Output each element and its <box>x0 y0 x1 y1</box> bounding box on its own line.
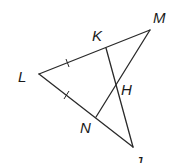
segment-MN <box>96 30 150 117</box>
label-H: H <box>121 81 132 98</box>
segment-LJ <box>39 74 133 147</box>
label-J: J <box>134 153 143 163</box>
tick-mark-LN <box>64 91 69 99</box>
geometry-diagram: L K M H N J <box>0 0 170 163</box>
label-M: M <box>153 9 166 26</box>
label-N: N <box>80 119 91 136</box>
label-K: K <box>92 27 103 44</box>
label-L: L <box>18 68 26 85</box>
